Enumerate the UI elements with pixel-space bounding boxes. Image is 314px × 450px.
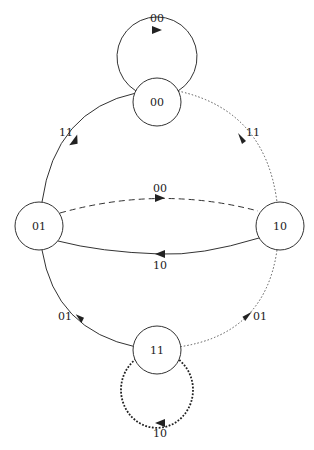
edge-label: 00: [150, 12, 164, 25]
state-label: 00: [150, 96, 164, 109]
edge-01-to-00: 11: [42, 93, 136, 202]
node-11: 11: [133, 326, 181, 374]
node-00: 00: [133, 78, 181, 126]
arc-01-00: [42, 93, 136, 202]
edge-01-to-10: 00: [60, 182, 258, 213]
arc-00-10: [178, 91, 277, 202]
arc-11-01: [42, 250, 136, 347]
arrow-icon: [155, 419, 165, 427]
edge-label: 01: [58, 310, 72, 323]
node-10: 10: [256, 202, 304, 250]
arrow-icon: [155, 250, 165, 258]
edge-label: 10: [153, 427, 167, 440]
edge-label: 00: [153, 182, 167, 195]
edge-label: 11: [246, 126, 260, 139]
state-label: 11: [150, 344, 164, 357]
arc-10-01: [58, 238, 259, 254]
edge-10-to-11: 01: [178, 250, 277, 347]
arrow-icon: [152, 26, 162, 34]
edge-11-to-01: 01: [42, 250, 136, 347]
arrow-icon: [238, 133, 246, 144]
state-label: 10: [273, 220, 287, 233]
edge-label: 11: [59, 126, 73, 139]
arc-01-10: [60, 198, 258, 213]
node-01: 01: [15, 202, 63, 250]
arc-10-11: [178, 250, 277, 347]
arrow-icon: [155, 194, 165, 202]
edge-00-to-10: 11: [178, 91, 277, 202]
edge-label: 10: [153, 259, 167, 272]
state-label: 01: [32, 220, 46, 233]
edge-label: 01: [253, 310, 267, 323]
state-diagram: 00 11 11 00 10 01 01 10: [0, 0, 314, 450]
edge-10-to-01: 10: [58, 238, 259, 272]
arrow-icon: [241, 309, 251, 322]
